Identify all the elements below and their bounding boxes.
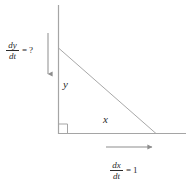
dy-numerator: dy [7, 40, 18, 50]
dt-denominator: dt [112, 171, 121, 181]
y-leg-label: y [63, 79, 68, 90]
dy-equals-sign: = [22, 46, 27, 55]
dt-denominator: dt [8, 51, 17, 61]
dx-dt-fraction: dx dt [110, 160, 123, 182]
dx-numerator: dx [111, 160, 122, 170]
triangle-diagram-svg [0, 0, 186, 185]
dy-value: ? [29, 46, 33, 55]
dx-value: 1 [133, 166, 138, 175]
dy-dt-fraction: dy dt [6, 40, 19, 62]
dx-equals-sign: = [126, 166, 131, 175]
figure-container: dy dt = ? dx dt = 1 y x [0, 0, 186, 185]
dx-dt-expression: dx dt = 1 [110, 160, 138, 182]
right-angle-marker [59, 124, 68, 134]
dy-dt-expression: dy dt = ? [6, 40, 33, 62]
x-leg-label: x [103, 114, 108, 125]
